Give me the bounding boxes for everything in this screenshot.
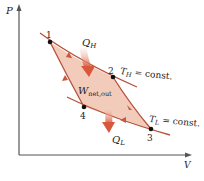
pv-diagram-canvas: P V 1 2 3 4 [0,0,204,181]
isotherm-high-label: TH = const. [120,66,173,83]
state-point-1 [48,40,53,45]
isotherm-low-label: TL = const. [149,114,201,130]
state-point-4 [82,105,87,110]
y-axis-label: P [5,5,13,16]
x-axis-label: V [184,160,192,170]
state-point-3 [149,127,154,132]
cycle-region [50,42,151,129]
x-axis-arrow-icon [185,153,192,158]
state-label-2: 2 [108,66,114,76]
state-label-1: 1 [46,30,52,40]
heat-out-label: QL [112,134,125,147]
state-label-3: 3 [147,133,153,143]
y-axis-arrow-icon [17,4,22,11]
pv-diagram: P V 1 2 3 4 [0,0,204,181]
state-label-4: 4 [80,111,86,121]
